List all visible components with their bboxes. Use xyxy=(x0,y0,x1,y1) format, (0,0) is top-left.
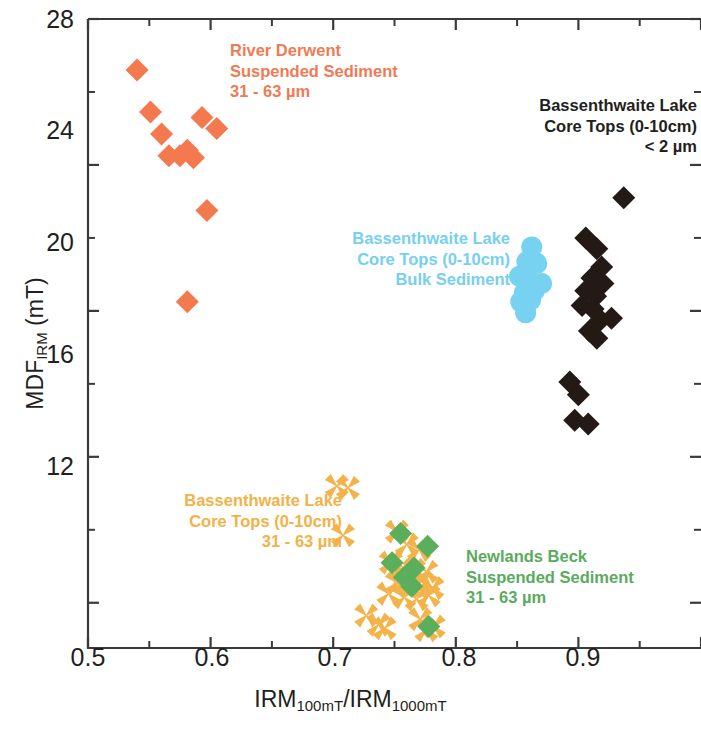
annotation-newlands-beck-line3: 31 - 63 µm xyxy=(466,587,634,608)
series-0 xyxy=(126,59,229,314)
annotation-bassenthwaite-bulk-line3: Bulk Sediment xyxy=(305,269,510,290)
annotation-newlands-beck-line2: Suspended Sediment xyxy=(466,567,634,588)
annotation-river-derwent-line2: Suspended Sediment xyxy=(230,61,398,82)
y-axis-title: MDFIRM (mT) xyxy=(22,249,49,439)
annotation-bassenthwaite-bulk-line2: Core Tops (0-10cm) xyxy=(305,249,510,270)
x-axis-title: IRM100mT/IRM1000mT xyxy=(0,686,701,713)
annotation-river-derwent: River Derwent Suspended Sediment 31 - 63… xyxy=(230,40,398,102)
series-2 xyxy=(558,186,635,435)
data-point xyxy=(515,302,536,323)
annotation-newlands-beck-line1: Newlands Beck xyxy=(466,546,634,567)
ytick-label-24: 24 xyxy=(2,116,74,145)
annotation-river-derwent-line1: River Derwent xyxy=(230,40,398,61)
scatter-plot-figure: 28 24 20 16 12 0.5 0.6 0.7 0.8 0.9 IRM10… xyxy=(0,0,701,737)
xtick-label-0-5: 0.5 xyxy=(48,643,128,672)
data-point xyxy=(354,603,378,627)
annotation-bassenthwaite-31-63-line1: Bassenthwaite Lake xyxy=(105,490,342,511)
data-point xyxy=(126,59,149,82)
data-point xyxy=(195,199,218,222)
x-axis-title-irm1: IRM xyxy=(254,686,296,712)
data-point xyxy=(139,101,162,124)
annotation-bassenthwaite-31-63: Bassenthwaite Lake Core Tops (0-10cm) 31… xyxy=(105,490,342,552)
annotation-bassenthwaite-lt2um-line3: < 2 µm xyxy=(445,136,697,157)
ytick-label-12: 12 xyxy=(2,452,74,481)
x-axis-title-divider: /IRM xyxy=(343,686,392,712)
data-point xyxy=(416,535,439,558)
annotation-bassenthwaite-lt2um: Bassenthwaite Lake Core Tops (0-10cm) < … xyxy=(445,95,697,157)
data-point xyxy=(612,186,635,209)
xtick-label-0-8: 0.8 xyxy=(419,643,499,672)
ytick-label-28: 28 xyxy=(2,5,74,34)
data-point xyxy=(150,122,173,145)
xtick-label-0-9: 0.9 xyxy=(543,643,623,672)
y-axis-title-sub: IRM xyxy=(33,332,50,360)
series-1 xyxy=(509,236,552,323)
x-axis-title-sub1: 100mT xyxy=(296,697,343,714)
annotation-newlands-beck: Newlands Beck Suspended Sediment 31 - 63… xyxy=(466,546,634,608)
annotation-river-derwent-line3: 31 - 63 µm xyxy=(230,81,398,102)
y-axis-title-mdf: MDF xyxy=(22,360,48,410)
xtick-label-0-6: 0.6 xyxy=(172,643,252,672)
annotation-bassenthwaite-lt2um-line2: Core Tops (0-10cm) xyxy=(445,116,697,137)
data-point xyxy=(526,253,547,274)
annotation-bassenthwaite-31-63-line3: 31 - 63 µm xyxy=(105,531,342,552)
annotation-bassenthwaite-bulk: Bassenthwaite Lake Core Tops (0-10cm) Bu… xyxy=(305,228,510,290)
x-axis-title-sub2: 1000mT xyxy=(392,697,447,714)
annotation-bassenthwaite-lt2um-line1: Bassenthwaite Lake xyxy=(445,95,697,116)
annotation-bassenthwaite-31-63-line2: Core Tops (0-10cm) xyxy=(105,511,342,532)
data-point xyxy=(176,290,199,313)
xtick-label-0-7: 0.7 xyxy=(295,643,375,672)
annotation-bassenthwaite-bulk-line1: Bassenthwaite Lake xyxy=(305,228,510,249)
y-axis-title-units: (mT) xyxy=(22,277,48,332)
